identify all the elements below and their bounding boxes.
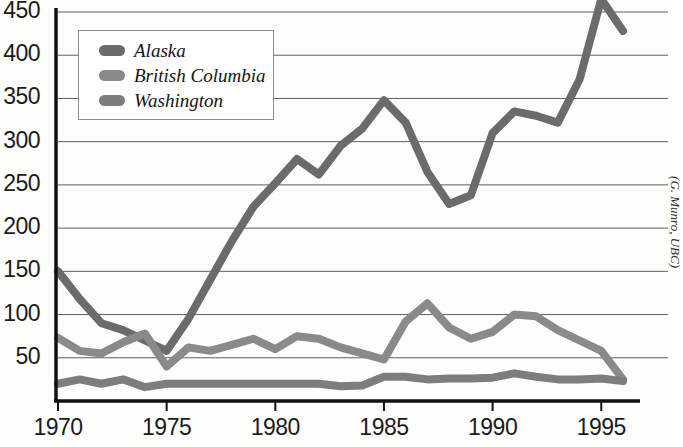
chart-legend: Alaska British Columbia Washington <box>78 30 274 120</box>
legend-item-alaska: Alaska <box>99 38 273 63</box>
legend-item-washington: Washington <box>99 88 273 113</box>
legend-label-washington: Washington <box>134 90 223 112</box>
x-tick-label: 1990 <box>468 414 517 441</box>
legend-swatch-washington <box>99 95 125 106</box>
x-tick-label: 1975 <box>142 414 191 441</box>
legend-swatch-alaska <box>99 45 125 56</box>
attribution-text: (G. Munro, UBC) <box>667 176 683 268</box>
x-tick-label: 1995 <box>577 414 626 441</box>
legend-label-alaska: Alaska <box>134 40 186 62</box>
x-tick-label: 1970 <box>33 414 82 441</box>
x-tick-label: 1980 <box>251 414 300 441</box>
x-tick-label: 1985 <box>359 414 408 441</box>
legend-swatch-british-columbia <box>99 70 125 81</box>
legend-item-british-columbia: British Columbia <box>99 63 273 88</box>
legend-label-british-columbia: British Columbia <box>134 65 265 87</box>
